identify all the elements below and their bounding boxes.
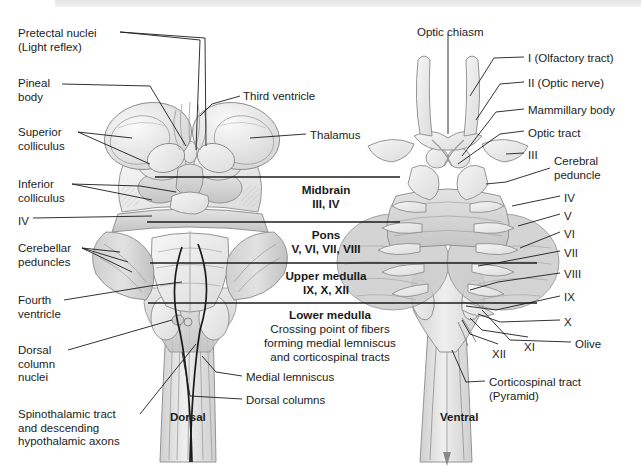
label-third-ventricle: Third ventricle [243, 90, 315, 104]
label-cn-ii-optic: II (Optic nerve) [528, 77, 604, 91]
band-title-midbrain: Midbrain [255, 183, 397, 197]
label-corticospinal-tract: Corticospinal tract (Pyramid) [489, 376, 581, 403]
label-dorsal-columns: Dorsal columns [246, 394, 325, 408]
dorsal-view-title: Dorsal [170, 411, 206, 425]
label-cerebellar-peduncles: Cerebellar peduncles [18, 242, 71, 269]
label-cn-ix: IX [564, 291, 575, 305]
label-thalamus: Thalamus [310, 129, 361, 143]
band-nerves-upper-medulla: IX, X, XII [255, 283, 397, 297]
label-fourth-ventricle: Fourth ventricle [18, 294, 61, 321]
label-inferior-colliculus: Inferior colliculus [18, 178, 65, 205]
label-pineal-body: Pineal body [18, 77, 50, 104]
label-spinothalamic-tract: Spinothalamic tract and descending hypot… [18, 408, 120, 449]
label-optic-chiasm: Optic chiasm [417, 26, 483, 40]
label-medial-lemniscus: Medial lemniscus [246, 371, 334, 385]
label-olive: Olive [575, 338, 601, 352]
label-superior-colliculus: Superior colliculus [18, 126, 65, 153]
label-cn-iii: III [528, 149, 538, 163]
label-cn-i-olfactory: I (Olfactory tract) [528, 52, 614, 66]
label-mammillary-body: Mammillary body [528, 104, 615, 118]
brainstem-diagram: Pretectal nuclei (Light reflex)Pineal bo… [0, 0, 641, 469]
band-title-pons: Pons [255, 228, 397, 242]
label-dorsal-column-nuclei: Dorsal column nuclei [18, 344, 55, 385]
label-cn-xii: XII [492, 348, 506, 362]
band-nerves-lower-medulla: Crossing point of fibers forming medial … [240, 322, 420, 364]
label-cn-iv-dorsal: IV [18, 215, 29, 229]
ventral-view-title: Ventral [440, 411, 478, 425]
label-cn-x: X [564, 316, 572, 330]
label-pretectal-nuclei: Pretectal nuclei (Light reflex) [18, 27, 97, 54]
band-upper-medulla: Upper medullaIX, X, XII [255, 269, 397, 297]
label-cn-xi: XI [524, 341, 535, 355]
label-cn-vi: VI [564, 228, 575, 242]
band-nerves-pons: V, VI, VII, VIII [255, 242, 397, 256]
band-lower-medulla: Lower medullaCrossing point of fibers fo… [240, 308, 420, 364]
label-cerebral-peduncle: Cerebral peduncle [554, 155, 601, 182]
label-cn-viii: VIII [564, 268, 581, 282]
band-title-upper-medulla: Upper medulla [255, 269, 397, 283]
band-nerves-midbrain: III, IV [255, 197, 397, 211]
label-cn-v: V [564, 210, 572, 224]
band-title-lower-medulla: Lower medulla [240, 308, 420, 322]
label-cn-vii: VII [564, 247, 578, 261]
band-midbrain: MidbrainIII, IV [255, 183, 397, 211]
label-cn-iv: IV [564, 192, 575, 206]
label-optic-tract: Optic tract [528, 127, 580, 141]
band-pons: PonsV, VI, VII, VIII [255, 228, 397, 256]
